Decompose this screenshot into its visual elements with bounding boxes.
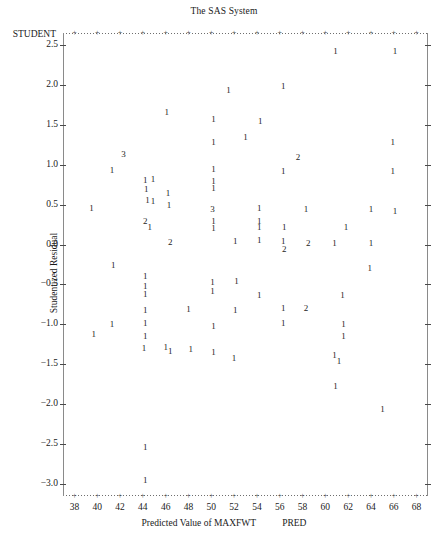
data-point: 1 [89,203,94,212]
y-tick-mark-right [425,284,431,285]
data-point: 1 [211,183,216,192]
x-tick-label: 54 [252,503,262,513]
x-tick-mark: + [300,29,305,37]
y-tick-label: 1.5 [46,120,58,130]
data-point: 1 [143,318,148,327]
y-tick-mark [60,364,66,365]
x-axis-variable-name: PRED [282,518,306,528]
y-tick-label: 2.0 [46,80,58,90]
data-point: 1 [166,189,171,198]
plot-left-axis [63,33,64,496]
x-tick-mark: + [163,29,168,37]
x-tick-mark: + [209,29,214,37]
y-tick-label: 2.5 [46,40,58,50]
y-tick-label: 1.0 [46,160,58,170]
data-point: 1 [341,320,346,329]
x-tick-mark: + [323,29,328,37]
data-point: 1 [390,138,395,147]
y-tick-mark-right [425,404,431,405]
data-point: 1 [258,116,263,125]
data-point: 1 [143,476,148,485]
data-point: 1 [333,381,338,390]
x-axis-title-text: Predicted Value of MAXFWTPRED [142,518,307,528]
y-tick-mark [60,484,66,485]
page-title: The SAS System [0,6,448,16]
y-tick-label: −1.0 [41,320,58,330]
x-tick-mark: + [118,492,123,500]
data-point: 1 [142,344,147,353]
data-point: 1 [337,357,342,366]
data-point: 1 [210,286,215,295]
x-tick-mark: + [255,29,260,37]
x-tick-mark: + [209,492,214,500]
y-tick-mark-right [425,484,431,485]
data-point: 1 [147,222,152,231]
data-point: 1 [143,290,148,299]
data-point: 1 [390,167,395,176]
x-tick-mark: + [414,29,419,37]
x-tick-label: 38 [70,503,80,513]
data-point: 1 [211,321,216,330]
y-tick-mark-right [425,444,431,445]
data-point: 1 [211,115,216,124]
data-point: 1 [243,132,248,141]
data-point: 1 [189,345,194,354]
x-tick-label: 42 [115,503,125,513]
y-tick-label: −2.5 [41,439,58,449]
x-tick-mark: + [232,29,237,37]
data-point: 1 [368,264,373,273]
x-tick-mark: + [141,29,146,37]
y-tick-label: 0.0 [46,240,58,250]
x-tick-label: 66 [389,503,399,513]
y-tick-label: −1.5 [41,360,58,370]
data-point: 1 [281,167,286,176]
y-axis-corner-label: STUDENT [8,29,56,39]
y-tick-mark [60,205,66,206]
data-point: 3 [121,150,126,159]
data-point: 1 [110,320,115,329]
data-point: 1 [211,348,216,357]
x-tick-label: 58 [298,503,308,513]
data-point: 2 [304,304,309,313]
data-point: 1 [145,195,150,204]
data-point: 1 [151,196,156,205]
x-tick-mark: + [277,29,282,37]
x-tick-mark: + [369,492,374,500]
x-tick-mark: + [346,492,351,500]
y-tick-mark-right [425,45,431,46]
data-point: 1 [257,235,262,244]
data-point: 1 [167,200,172,209]
y-tick-mark [60,85,66,86]
data-point: 1 [110,166,115,175]
y-tick-mark [60,404,66,405]
x-tick-mark: + [186,492,191,500]
sas-plot-page: The SAS System STUDENT Studentized Resid… [0,0,448,545]
x-tick-mark: + [346,29,351,37]
x-tick-label: 62 [343,503,353,513]
x-tick-mark: + [72,492,77,500]
data-point: 1 [369,238,374,247]
x-tick-label: 46 [161,503,171,513]
data-point: 1 [393,207,398,216]
x-tick-label: 44 [138,503,148,513]
x-tick-mark: + [392,492,397,500]
y-tick-mark [60,324,66,325]
data-point: 1 [143,442,148,451]
data-point: 3 [210,204,215,213]
data-point: 1 [344,222,349,231]
x-tick-label: 64 [366,503,376,513]
plot-area: 2.52.01.51.00.50.0−0.5−1.0−1.5−2.0−2.5−3… [63,33,428,496]
x-tick-mark: + [232,492,237,500]
data-point: 1 [341,331,346,340]
x-tick-mark: + [369,29,374,37]
data-point: 1 [211,137,216,146]
y-tick-label: −3.0 [41,479,58,489]
data-point: 1 [143,306,148,315]
data-point: 1 [226,85,231,94]
data-point: 1 [304,204,309,213]
data-point: 1 [281,304,286,313]
x-tick-label: 68 [412,503,422,513]
data-point: 1 [211,223,216,232]
data-point: 1 [144,184,149,193]
data-point: 1 [168,346,173,355]
